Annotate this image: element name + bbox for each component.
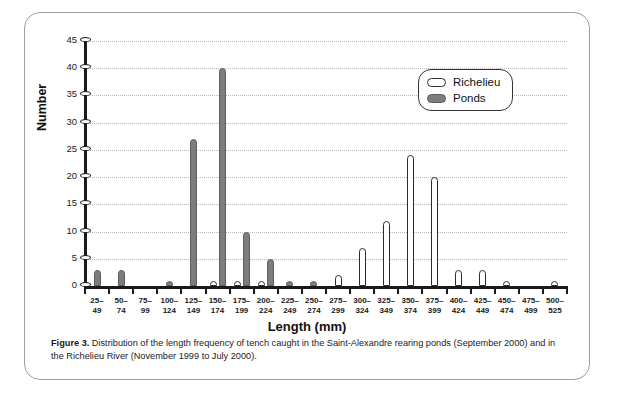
x-axis-tick-label-line: 75–: [139, 296, 152, 306]
x-axis-tick-label: 300–324: [353, 296, 371, 315]
x-axis-tick-label-line: 200–: [257, 296, 275, 306]
x-axis-tick: [253, 289, 255, 294]
x-axis-tick-label-line: 450–: [498, 296, 516, 306]
y-axis-tick-label: 5: [72, 251, 77, 262]
bar-group: [85, 41, 109, 286]
figure-caption-label: Figure 3.: [51, 338, 89, 348]
x-axis-tick-label-line: 150–: [209, 296, 227, 306]
x-axis-tick: [156, 289, 158, 294]
bar-ponds: [267, 259, 274, 286]
x-axis-tick-label: 450–474: [498, 296, 516, 315]
x-axis-tick: [180, 289, 182, 294]
x-axis-tick-label-line: 275–: [329, 296, 347, 306]
x-axis-tick-label-line: 474: [498, 306, 516, 316]
legend-item-ponds: Ponds: [427, 90, 500, 106]
bar-richelieu: [407, 155, 414, 286]
bar-group: [302, 41, 326, 286]
x-axis-tick-label: 350–374: [401, 296, 419, 315]
x-axis-tick-label-line: 175–: [233, 296, 251, 306]
bar-group: [543, 41, 567, 286]
y-axis-tick: [80, 255, 91, 260]
bar-group: [254, 41, 278, 286]
bar-group: [157, 41, 181, 286]
x-axis-tick-label-line: 149: [185, 306, 203, 316]
x-axis-tick-label-line: 500–: [546, 296, 564, 306]
legend-item-richelieu: Richelieu: [427, 74, 500, 90]
x-axis-tick-label-line: 400–: [450, 296, 468, 306]
y-axis-tick: [80, 146, 91, 151]
x-axis-tick-label-line: 249: [281, 306, 299, 316]
bar-group: [519, 41, 543, 286]
x-axis-tick: [325, 289, 327, 294]
y-axis-tick-label: 0: [72, 279, 77, 290]
x-axis-tick: [132, 289, 134, 294]
x-axis-tick-label: 325–349: [377, 296, 395, 315]
x-axis-tick-label: 50–74: [114, 296, 127, 315]
x-axis-tick-label: 275–299: [329, 296, 347, 315]
bar-group: [278, 41, 302, 286]
legend-swatch-richelieu: [427, 78, 446, 87]
x-axis-tick-label-line: 25–: [90, 296, 103, 306]
bar-ponds: [94, 270, 101, 286]
y-axis-tick-label: 35: [66, 88, 77, 99]
x-axis-tick-label: 150–174: [209, 296, 227, 315]
x-axis-tick-label-line: 324: [353, 306, 371, 316]
bar-richelieu: [359, 248, 366, 286]
x-axis-tick-label-line: 475–: [522, 296, 540, 306]
bar-group: [230, 41, 254, 286]
bar-group: [350, 41, 374, 286]
bar-group: [181, 41, 205, 286]
x-axis-tick: [373, 289, 375, 294]
bar-group: [206, 41, 230, 286]
bar-richelieu: [431, 177, 438, 286]
legend-label-richelieu: Richelieu: [453, 76, 500, 88]
bar-ponds: [219, 68, 226, 286]
x-axis-tick: [205, 289, 207, 294]
y-axis-tick-label: 40: [66, 61, 77, 72]
x-axis-tick-label-line: 274: [305, 306, 323, 316]
x-axis-tick-label-line: 124: [160, 306, 178, 316]
x-axis-tick: [397, 289, 399, 294]
x-axis-tick: [566, 289, 568, 294]
bar-group: [374, 41, 398, 286]
y-axis-title: Number: [35, 84, 49, 131]
x-axis-tick-label-line: 325–: [377, 296, 395, 306]
x-axis-tick-label-line: 424: [450, 306, 468, 316]
figure-caption: Figure 3. Distribution of the length fre…: [51, 337, 567, 363]
x-axis-tick-label-line: 350–: [401, 296, 419, 306]
x-axis-tick-label-line: 50–: [114, 296, 127, 306]
y-axis-tick: [80, 119, 91, 124]
x-axis: [84, 286, 568, 289]
x-axis-tick-label-line: 224: [257, 306, 275, 316]
x-axis-tick-label-line: 349: [377, 306, 395, 316]
x-axis-tick: [518, 289, 520, 294]
y-axis-tick-label: 20: [66, 170, 77, 181]
x-axis-tick-label-line: 300–: [353, 296, 371, 306]
bar-richelieu: [335, 275, 342, 286]
legend-label-ponds: Ponds: [453, 92, 486, 104]
x-axis-tick-label-line: 425–: [474, 296, 492, 306]
bar-ponds: [243, 232, 250, 286]
x-axis-tick-label-line: 174: [209, 306, 227, 316]
x-axis-tick-label: 400–424: [450, 296, 468, 315]
x-axis-tick-label: 250–274: [305, 296, 323, 315]
legend-swatch-ponds: [427, 94, 446, 103]
x-axis-tick-label-line: 499: [522, 306, 540, 316]
x-axis-tick-label-line: 374: [401, 306, 419, 316]
x-axis-tick-label-line: 375–: [426, 296, 444, 306]
bar-ponds: [118, 270, 125, 286]
bar-richelieu: [383, 221, 390, 286]
y-axis-tick: [80, 228, 91, 233]
x-axis-tick-label: 100–124: [160, 296, 178, 315]
x-axis-tick: [277, 289, 279, 294]
bar-group: [109, 41, 133, 286]
x-axis-tick: [108, 289, 110, 294]
x-axis-tick-label: 225–249: [281, 296, 299, 315]
x-axis-tick-label-line: 449: [474, 306, 492, 316]
y-axis-tick-label: 45: [66, 34, 77, 45]
x-axis-tick-label-line: 299: [329, 306, 347, 316]
chart-legend: Richelieu Ponds: [418, 69, 513, 111]
x-axis-tick-label-line: 100–: [160, 296, 178, 306]
x-axis-tick-label: 25–49: [90, 296, 103, 315]
x-axis-tick-label-line: 225–: [281, 296, 299, 306]
